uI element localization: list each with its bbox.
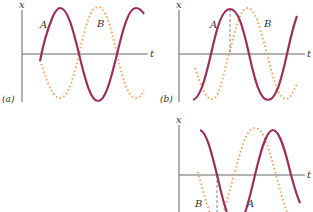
panel-b: x t A B (b) [160,0,312,104]
curve-a-label: A [39,19,47,30]
t-axis-label: t [150,48,155,59]
curve-b-label: B [96,18,104,29]
curve-b [40,7,144,98]
oscillation-figure: x t A B (a) x t A B (b) x t B A [0,0,313,212]
panel-c: x t B A [176,114,312,212]
panel-label: (a) [2,94,15,104]
curve-b-label: B [263,18,271,29]
curve-a-label: A [209,19,217,30]
t-axis-label: t [307,48,312,59]
x-axis-label: x [19,0,25,10]
x-axis-label: x [176,0,182,10]
t-axis-label: t [307,169,312,180]
panel-a: x t A B (a) [2,0,155,104]
panel-label: (b) [160,94,173,104]
x-axis-label: x [176,114,182,125]
curve-b-label: B [194,198,202,209]
curve-a-label: A [246,198,254,209]
